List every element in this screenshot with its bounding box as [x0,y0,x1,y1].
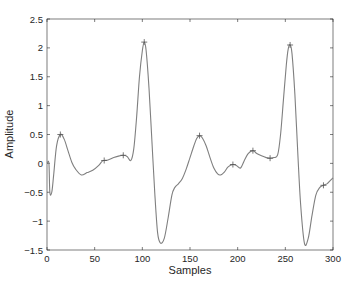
x-tick-label: 250 [277,253,293,264]
y-tick-label: 1.5 [30,71,43,82]
x-tick-label: 300 [325,253,341,264]
x-tick-label: 50 [89,253,100,264]
axes: 050100150200250300−1.5−1−0.500.511.522.5 [24,14,341,265]
y-axis-label: Amplitude [3,110,15,159]
y-tick-label: 2 [38,42,43,53]
x-axis-label: Samples [169,264,212,276]
y-tick-label: −1 [32,216,43,227]
y-tick-label: −1.5 [24,245,43,256]
line-chart: 050100150200250300−1.5−1−0.500.511.522.5… [0,0,354,292]
y-tick-label: 1 [38,100,43,111]
x-tick-label: 150 [182,253,198,264]
y-tick-label: −0.5 [24,187,43,198]
plot-frame [47,19,333,250]
y-tick-label: 2.5 [30,14,43,25]
y-tick-label: 0.5 [30,129,43,140]
x-tick-label: 100 [134,253,150,264]
x-tick-label: 200 [230,253,246,264]
x-tick-label: 0 [44,253,49,264]
y-tick-label: 0 [38,158,43,169]
